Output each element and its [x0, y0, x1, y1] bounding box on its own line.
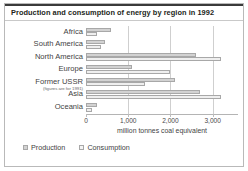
- x-axis-tick-labels: 01,0002,0003,000: [86, 117, 238, 127]
- legend-item-consumption: Consumption: [79, 143, 129, 152]
- legend-item-production: Production: [23, 143, 65, 152]
- legend-swatch-production: [23, 145, 28, 150]
- category-label-africa: Africa: [64, 28, 83, 36]
- chart-legend: ProductionConsumption: [23, 143, 130, 152]
- x-axis-title: million tonnes coal equivalent: [86, 127, 238, 134]
- x-tick-label: 2,000: [162, 117, 179, 124]
- category-label-north-america: North America: [35, 53, 83, 61]
- category-label-europe: Europe: [59, 65, 84, 73]
- x-tick-label: 3,000: [204, 117, 221, 124]
- page-title: Production and consumption of energy by …: [5, 8, 214, 17]
- category-label-oceania: Oceania: [55, 103, 83, 111]
- bar-africa-production: [86, 28, 111, 32]
- bar-north-america-production: [86, 53, 196, 57]
- bar-asia-consumption: [86, 95, 221, 99]
- legend-label: Production: [31, 143, 65, 152]
- category-label-asia: Asia: [68, 90, 83, 98]
- x-tick-label: 0: [84, 117, 88, 124]
- bar-oceania-production: [86, 103, 97, 107]
- x-tick-label: 1,000: [120, 117, 137, 124]
- bar-south-america-consumption: [86, 45, 101, 49]
- category-axis-labels: AfricaSouth AmericaNorth AmericaEuropeFo…: [5, 26, 86, 114]
- bar-north-america-consumption: [86, 57, 221, 61]
- bar-former-ussr-consumption: [86, 82, 145, 86]
- legend-swatch-consumption: [79, 145, 84, 150]
- bar-europe-production: [86, 65, 132, 69]
- chart-figure: Production and consumption of energy by …: [4, 3, 244, 167]
- bar-europe-consumption: [86, 70, 170, 74]
- bar-oceania-consumption: [86, 108, 92, 112]
- bar-asia-production: [86, 90, 200, 94]
- chart-title-band: Production and consumption of energy by …: [5, 4, 243, 21]
- bars-region: [86, 26, 238, 114]
- gridline: [213, 26, 214, 114]
- bar-south-america-production: [86, 40, 105, 44]
- category-label-south-america: South America: [34, 40, 83, 48]
- gridline: [170, 26, 171, 114]
- plot-area: AfricaSouth AmericaNorth AmericaEuropeFo…: [5, 21, 245, 168]
- bar-africa-consumption: [86, 32, 97, 36]
- bar-former-ussr-production: [86, 78, 175, 82]
- legend-label: Consumption: [87, 143, 129, 152]
